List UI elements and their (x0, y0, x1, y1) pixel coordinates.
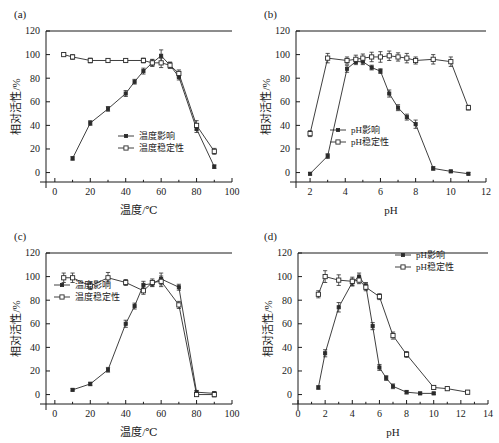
data-point-marker (62, 276, 66, 280)
plot-a: 020406080100120020406080100(a)温度/℃相对活性/%… (0, 0, 249, 221)
y-tick-label: 0 (285, 167, 290, 178)
data-point-marker (337, 306, 340, 309)
panel-label: (d) (264, 230, 277, 243)
data-point-marker (388, 92, 391, 95)
legend: pH影响pH稳定性 (330, 124, 389, 147)
data-point-marker (317, 386, 320, 389)
data-point-marker (308, 132, 312, 136)
data-point-marker (62, 52, 66, 56)
y-tick-label: 40 (282, 342, 292, 353)
data-point-marker (431, 57, 435, 61)
y-tick-label: 60 (280, 96, 290, 107)
data-point-marker (168, 63, 172, 67)
x-tick-label: 12 (456, 408, 466, 419)
data-point-marker (466, 106, 470, 110)
x-tick-label: 40 (121, 186, 131, 197)
y-tick-label: 80 (30, 295, 40, 306)
x-tick-label: 20 (85, 186, 95, 197)
legend-label: 温度稳定性 (139, 142, 184, 153)
y-axis-title: 相对活性/% (9, 78, 22, 134)
data-point-marker (326, 56, 330, 60)
x-tick-label: 4 (343, 186, 348, 197)
y-tick-label: 120 (25, 25, 40, 36)
data-point-marker (414, 58, 418, 62)
chart-panel-c: 020406080100120020406080100(c)温度/℃相对活性/%… (0, 222, 249, 443)
data-point-marker (396, 55, 400, 59)
y-tick-label: 20 (30, 365, 40, 376)
data-point-marker (371, 325, 374, 328)
x-tick-label: 8 (404, 408, 409, 419)
y-tick-label: 80 (280, 73, 290, 84)
legend-label: pH稳定性 (351, 136, 389, 147)
series-2 (316, 271, 469, 395)
data-point-marker (354, 57, 358, 61)
x-tick-label: 10 (446, 186, 456, 197)
data-point-marker (160, 54, 163, 57)
data-point-marker (378, 55, 382, 59)
data-point-marker (361, 56, 365, 60)
y-tick-label: 100 (275, 49, 290, 60)
legend-marker (401, 265, 405, 269)
data-point-marker (432, 385, 436, 389)
legend-label: pH影响 (416, 249, 445, 260)
y-tick-label: 80 (282, 295, 292, 306)
data-point-marker (88, 58, 92, 62)
y-axis-title: 相对活性/% (261, 300, 274, 356)
y-tick-label: 20 (280, 143, 290, 154)
x-tick-label: 40 (121, 408, 131, 419)
data-point-marker (419, 392, 422, 395)
legend-marker (336, 128, 339, 131)
data-point-marker (142, 283, 145, 286)
y-axis-title: 相对活性/% (259, 78, 272, 134)
data-point-marker (385, 376, 388, 379)
legend-marker (60, 283, 63, 286)
data-point-marker (345, 67, 348, 70)
legend-label: 温度稳定性 (75, 291, 120, 302)
data-point-marker (405, 56, 409, 60)
y-tick-label: 0 (287, 389, 292, 400)
data-point-marker (133, 304, 136, 307)
plot-c: 020406080100120020406080100(c)温度/℃相对活性/%… (0, 222, 249, 443)
panel-label: (b) (264, 8, 277, 21)
data-point-marker (71, 157, 74, 160)
y-tick-label: 40 (280, 120, 290, 131)
data-point-marker (405, 391, 408, 394)
y-tick-label: 100 (277, 271, 292, 282)
y-axis-title: 相对活性/% (9, 300, 22, 356)
y-tick-label: 60 (30, 318, 40, 329)
data-point-marker (370, 66, 373, 69)
y-tick-label: 120 (25, 247, 40, 258)
legend-marker (336, 140, 340, 144)
plot-d: 02040608010012002468101214(d)pH相对活性/%pH影… (250, 222, 499, 443)
x-tick-label: 100 (225, 186, 240, 197)
y-tick-label: 40 (30, 342, 40, 353)
x-tick-label: 14 (483, 408, 493, 419)
data-point-marker (124, 92, 127, 95)
data-point-marker (324, 352, 327, 355)
data-point-marker (106, 58, 110, 62)
plot-b: 02040608010012024681012(b)pH相对活性/%pH影响pH… (250, 0, 499, 221)
y-tick-label: 20 (30, 143, 40, 154)
x-tick-label: 20 (85, 408, 95, 419)
data-point-marker (159, 61, 163, 65)
data-point-marker (364, 285, 368, 289)
data-point-marker (150, 280, 154, 284)
data-point-marker (466, 390, 470, 394)
data-point-marker (387, 54, 391, 58)
data-point-marker (370, 55, 374, 59)
data-point-marker (70, 276, 74, 280)
data-point-marker (449, 60, 453, 64)
x-tick-label: 4 (350, 408, 355, 419)
data-point-marker (405, 116, 408, 119)
y-tick-label: 40 (30, 120, 40, 131)
x-tick-label: 2 (323, 408, 328, 419)
legend-marker (124, 134, 127, 137)
y-tick-label: 80 (30, 73, 40, 84)
data-point-marker (357, 278, 361, 282)
x-tick-label: 8 (413, 186, 418, 197)
data-point-marker (326, 154, 329, 157)
legend-label: 温度影响 (75, 279, 111, 290)
data-point-marker (391, 333, 395, 337)
data-point-marker (445, 387, 449, 391)
y-tick-label: 0 (35, 167, 40, 178)
